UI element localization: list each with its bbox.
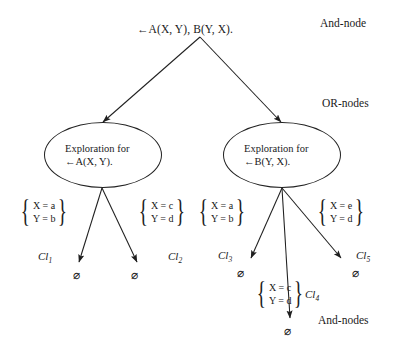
root-goal-label: ←A(X, Y), B(Y, X).: [137, 23, 233, 36]
substitution-left-1: { X = a Y = b }: [18, 199, 70, 225]
clause-label-cl1-index: 1: [48, 256, 52, 265]
edge-or-left-to-empty-2: [102, 188, 137, 262]
substitution-right-3-x: X = e: [330, 199, 353, 212]
edge-root-to-or-right: [200, 37, 281, 122]
substitution-left-1-y: Y = b: [33, 212, 56, 225]
annotation-or-nodes: OR-nodes: [322, 97, 369, 110]
diagram-canvas: ←A(X, Y), B(Y, X). And-node OR-nodes And…: [0, 0, 419, 357]
brace-right-icon: }: [236, 200, 245, 224]
clause-label-cl4: Cl4: [305, 288, 319, 303]
or-node-right-line2: ←B(Y, X).: [244, 155, 290, 168]
brace-right-icon: }: [58, 200, 67, 224]
annotation-and-nodes-bottom: And-nodes: [318, 314, 368, 327]
brace-left-icon: {: [318, 200, 327, 224]
clause-label-cl1-base: Cl: [38, 250, 48, 262]
clause-label-cl2-base: Cl: [168, 250, 178, 262]
or-node-exploration-a[interactable]: Exploration for ←A(X, Y).: [44, 122, 162, 188]
clause-label-cl5: Cl5: [356, 249, 370, 264]
clause-label-cl5-base: Cl: [356, 249, 366, 261]
empty-clause-1: ⌀: [73, 268, 80, 283]
substitution-right-2: { X = c Y = d }: [254, 281, 306, 307]
substitution-left-1-x: X = a: [33, 199, 56, 212]
clause-label-cl3-base: Cl: [218, 249, 228, 261]
substitution-left-2-y: Y = d: [151, 212, 174, 225]
empty-clause-2: ⌀: [131, 268, 138, 283]
clause-label-cl2-index: 2: [178, 256, 182, 265]
or-node-left-line2: ←A(X, Y).: [65, 155, 113, 168]
brace-right-icon: }: [176, 200, 185, 224]
or-node-left-line1: Exploration for: [65, 142, 129, 155]
edge-or-right-to-empty-3: [251, 188, 282, 258]
substitution-left-2-x: X = c: [151, 199, 174, 212]
clause-label-cl5-index: 5: [366, 255, 370, 264]
brace-left-icon: {: [257, 282, 266, 306]
or-node-exploration-b[interactable]: Exploration for ←B(Y, X).: [223, 122, 341, 188]
brace-right-icon: }: [355, 200, 364, 224]
edge-or-left-to-empty-1: [79, 188, 102, 262]
edge-root-to-or-left: [103, 37, 200, 122]
substitution-right-3-y: Y = d: [330, 212, 353, 225]
clause-label-cl4-base: Cl: [305, 288, 315, 300]
substitution-right-1-y: Y = b: [211, 212, 234, 225]
brace-left-icon: {: [139, 200, 148, 224]
clause-label-cl4-index: 4: [315, 294, 319, 303]
or-node-right-line1: Exploration for: [244, 142, 308, 155]
empty-clause-3: ⌀: [237, 266, 244, 281]
substitution-right-3: { X = e Y = d }: [315, 199, 367, 225]
brace-left-icon: {: [21, 200, 30, 224]
substitution-left-2: { X = c Y = d }: [136, 199, 188, 225]
substitution-right-1-x: X = a: [211, 199, 234, 212]
clause-label-cl2: Cl2: [168, 250, 182, 265]
clause-label-cl1: Cl1: [38, 250, 52, 265]
brace-left-icon: {: [199, 200, 208, 224]
clause-label-cl3: Cl3: [218, 249, 232, 264]
clause-label-cl3-index: 3: [228, 255, 232, 264]
substitution-right-2-x: X = c: [269, 281, 292, 294]
annotation-and-node-top: And-node: [320, 17, 366, 30]
empty-clause-4: ⌀: [284, 324, 291, 339]
substitution-right-1: { X = a Y = b }: [196, 199, 248, 225]
empty-clause-5: ⌀: [352, 266, 359, 281]
substitution-right-2-y: Y = d: [269, 294, 292, 307]
brace-right-icon: }: [294, 282, 303, 306]
